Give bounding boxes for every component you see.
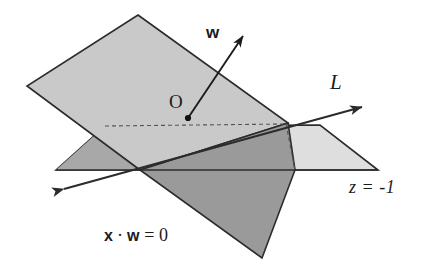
origin-dot — [185, 115, 191, 121]
plane-z-label: z = -1 — [349, 178, 395, 196]
line-L-label: L — [330, 72, 342, 93]
hyperplane-w-symbol: w — [127, 227, 139, 244]
hyperplane-equals-zero: = 0 — [139, 225, 168, 245]
hyperplane-dot-symbol: · — [113, 225, 127, 245]
origin-label: O — [169, 92, 183, 111]
hyperplane-equation-label: x·w= 0 — [104, 226, 168, 244]
normal-vector-label: w — [206, 24, 220, 41]
hyperplane-x-symbol: x — [104, 227, 113, 244]
